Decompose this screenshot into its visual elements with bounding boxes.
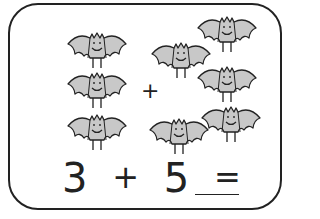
- bat-icon: [66, 28, 128, 72]
- equation-equals: =: [214, 161, 242, 193]
- plus-sign: +: [141, 80, 159, 102]
- bat-icon: [148, 114, 210, 158]
- bat-icon: [66, 68, 128, 112]
- equation-op: +: [112, 161, 140, 193]
- bat-icon: [196, 12, 258, 56]
- bat-icon: [196, 62, 258, 106]
- bat-icon: [66, 110, 128, 154]
- answer-blank[interactable]: [195, 194, 239, 195]
- equation-right: 5: [164, 158, 190, 198]
- equation: 3 + 5 =: [62, 158, 252, 198]
- equation-left: 3: [62, 158, 88, 198]
